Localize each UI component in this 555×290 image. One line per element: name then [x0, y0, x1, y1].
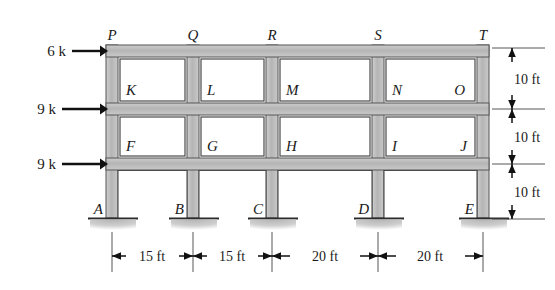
member-label-M: M [285, 82, 300, 98]
support-label-B: B [175, 201, 184, 217]
support-E [459, 219, 509, 231]
bay-dim-3: 20 ft [312, 249, 338, 264]
beam-level2 [106, 158, 489, 170]
support-B [169, 219, 219, 231]
column-A-P [106, 45, 118, 218]
joint-label-S: S [374, 27, 382, 43]
top-joint-labels: P Q R S T [106, 27, 488, 43]
joint-label-R: R [266, 27, 276, 43]
support-label-D: D [357, 201, 369, 217]
member-label-F: F [125, 138, 136, 154]
member-label-G: G [207, 138, 218, 154]
beam-roof-PT [106, 45, 489, 57]
bay-dim-1: 15 ft [139, 249, 165, 264]
story-dim-3: 10 ft [514, 185, 540, 200]
frame-panels-middle [120, 117, 475, 156]
bay-dim-2: 15 ft [219, 249, 245, 264]
bay-dimension-chain: 15 ft 15 ft 20 ft 20 ft [112, 232, 483, 272]
bay-ground-4 [384, 170, 477, 218]
support-A [88, 219, 138, 231]
load-label-level3: 9 k [37, 101, 56, 117]
member-label-I: I [391, 138, 398, 154]
frame-structure [106, 45, 489, 218]
support-C [248, 219, 298, 231]
column-C-R [266, 45, 278, 218]
bay-dim-4: 20 ft [417, 249, 443, 264]
load-arrow-level3 [62, 104, 108, 115]
member-label-N: N [391, 82, 403, 98]
column-E-T [477, 45, 489, 218]
fixed-supports [88, 219, 509, 231]
load-arrow-roof [72, 46, 108, 57]
frame-diagram-canvas: 6 k 9 k 9 k P Q R S T K L M N O F G H I … [0, 0, 555, 290]
load-arrow-level2 [62, 159, 108, 170]
member-label-K: K [125, 82, 137, 98]
joint-label-P: P [106, 27, 116, 43]
frame-diagram-figure: 6 k 9 k 9 k P Q R S T K L M N O F G H I … [0, 0, 555, 290]
member-label-L: L [206, 82, 215, 98]
support-label-C: C [253, 201, 264, 217]
story-dim-1: 10 ft [514, 72, 540, 87]
load-label-level2: 9 k [37, 156, 56, 172]
story-dim-2: 10 ft [514, 130, 540, 145]
member-label-O: O [454, 82, 465, 98]
column-D-S [372, 45, 384, 218]
member-label-H: H [285, 138, 298, 154]
story-dimension-chain: 10 ft 10 ft 10 ft [492, 48, 545, 219]
load-label-roof: 6 k [47, 43, 66, 59]
lateral-load-arrows [62, 46, 108, 170]
joint-label-T: T [479, 27, 489, 43]
support-label-E: E [464, 201, 474, 217]
support-label-A: A [93, 201, 104, 217]
column-B-Q [187, 45, 199, 218]
beam-level3 [106, 103, 489, 115]
joint-label-Q: Q [188, 27, 199, 43]
frame-panels-ground [118, 170, 477, 218]
support-D [354, 219, 404, 231]
